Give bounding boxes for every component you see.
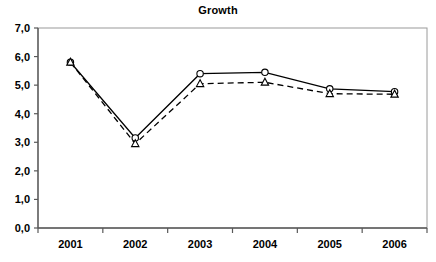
x-tick-label-2004: 2004 <box>253 238 278 250</box>
x-axis-ticks <box>38 228 427 233</box>
growth-line-chart: Growth 0,01,02,03,04,05,06,07,0 20012002… <box>0 0 436 262</box>
plot-border <box>38 28 427 228</box>
chart-plot-area: 0,01,02,03,04,05,06,07,0 200120022003200… <box>0 0 436 262</box>
plot-frame <box>38 28 427 228</box>
data-point-series-solid-circle-2003 <box>197 71 203 77</box>
x-tick-label-2001: 2001 <box>58 238 82 250</box>
y-tick-label-6: 6,0 <box>15 51 30 63</box>
x-tick-label-2002: 2002 <box>123 238 147 250</box>
x-tick-label-2005: 2005 <box>318 238 342 250</box>
y-tick-label-1: 1,0 <box>15 193 30 205</box>
y-tick-label-7: 7,0 <box>15 22 30 34</box>
x-tick-label-2006: 2006 <box>382 238 406 250</box>
y-tick-label-3: 3,0 <box>15 136 30 148</box>
y-tick-label-2: 2,0 <box>15 165 30 177</box>
y-tick-label-0: 0,0 <box>15 222 30 234</box>
data-point-series-solid-circle-2004 <box>262 69 268 75</box>
x-axis-tick-labels: 200120022003200420052006 <box>58 238 407 250</box>
y-tick-label-4: 4,0 <box>15 108 30 120</box>
y-axis-tick-labels: 0,01,02,03,04,05,06,07,0 <box>15 22 30 234</box>
y-tick-label-5: 5,0 <box>15 79 30 91</box>
x-tick-label-2003: 2003 <box>188 238 212 250</box>
